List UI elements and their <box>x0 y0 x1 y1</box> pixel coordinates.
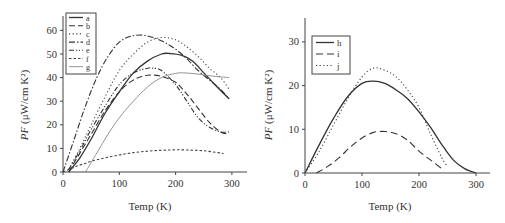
left-y-ticks: 0102030405060 <box>47 25 64 178</box>
x-tick-label: 200 <box>411 179 427 190</box>
right-legend-box <box>312 36 350 74</box>
x-tick-label: 300 <box>468 179 484 190</box>
legend-g-label: g <box>86 63 90 72</box>
right-legend: hij <box>312 36 350 74</box>
y-tick-label: 40 <box>47 72 58 83</box>
right-y-axis-label-units: (μW/cm K²) <box>262 70 275 127</box>
right-x-axis-label: Temp (K) <box>369 200 412 213</box>
y-tick-label: 30 <box>47 96 58 107</box>
left-x-axis-label: Temp (K) <box>129 200 172 213</box>
series-e-line <box>69 68 230 170</box>
y-tick-label: 10 <box>47 143 58 154</box>
left-y-axis-label-units: (μW/cm K²) <box>18 70 31 127</box>
right-chart-curves <box>305 68 476 173</box>
y-tick-label: 50 <box>47 49 58 60</box>
y-tick-label: 10 <box>289 124 300 135</box>
series-h-line <box>305 81 476 173</box>
y-tick-label: 60 <box>47 25 58 36</box>
right-y-ticks: 0102030 <box>289 36 306 178</box>
x-tick-label: 100 <box>111 178 127 189</box>
y-tick-label: 30 <box>289 36 300 47</box>
right-y-axis-label: PF (μW/cm K²) <box>262 70 275 142</box>
x-tick-label: 100 <box>354 179 370 190</box>
legend-h-label: h <box>337 38 342 48</box>
y-tick-label: 0 <box>52 167 57 178</box>
x-tick-label: 300 <box>224 178 240 189</box>
right-x-ticks: 0100200300 <box>302 173 484 190</box>
left-legend: abcdefg <box>66 13 96 74</box>
y-tick-label: 20 <box>47 119 58 130</box>
x-tick-label: 0 <box>60 178 65 189</box>
figure: 0102030405060 0100200300 Temp (K) PF (μW… <box>0 0 505 223</box>
right-chart: 0102030 0100200300 Temp (K) PF (μW/cm K²… <box>262 18 490 213</box>
series-i-line <box>316 131 441 173</box>
legend-j-label: j <box>336 61 340 71</box>
left-y-axis-label-pf: PF <box>18 126 30 141</box>
x-tick-label: 0 <box>302 179 307 190</box>
right-y-axis-label-pf: PF <box>262 126 274 141</box>
left-legend-box <box>66 13 96 74</box>
y-tick-label: 20 <box>289 80 300 91</box>
x-tick-label: 200 <box>168 178 184 189</box>
left-chart: 0102030405060 0100200300 Temp (K) PF (μW… <box>18 13 247 213</box>
left-x-ticks: 0100200300 <box>60 172 239 189</box>
left-y-axis-label: PF (μW/cm K²) <box>18 70 31 142</box>
y-tick-label: 0 <box>294 168 299 179</box>
